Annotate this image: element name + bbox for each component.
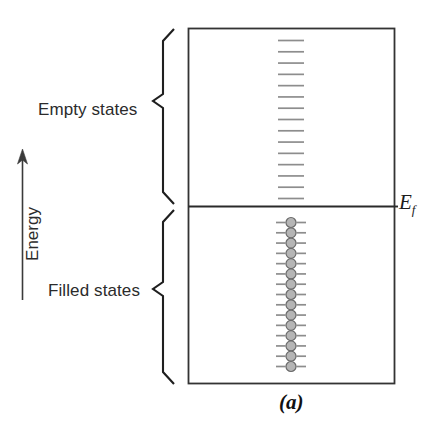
figure-caption: (a) [279,390,304,415]
empty-states-brace [153,29,174,204]
electron-marker [286,310,296,320]
filled-state-level [276,362,306,372]
empty-states-label: Empty states [38,100,137,120]
electron-marker [286,279,296,289]
empty-states-levels [278,41,304,199]
filled-state-level [276,310,306,320]
filled-state-level [276,331,306,341]
electron-marker [286,362,296,372]
energy-band-diagram-figure: Empty states Filled states Energy Ef (a) [0,0,432,423]
filled-state-level [276,300,306,310]
filled-state-level [276,259,306,269]
filled-state-level [276,320,306,330]
fermi-energy-subscript: f [412,202,416,217]
electron-marker [286,269,296,279]
electron-marker [286,228,296,238]
electron-marker [286,248,296,258]
filled-state-level [276,290,306,300]
electron-marker [286,259,296,269]
electron-marker [286,331,296,341]
energy-axis-label: Energy [23,189,43,279]
fermi-energy-symbol: E [399,190,412,214]
electron-marker [286,238,296,248]
electron-marker [286,341,296,351]
filled-state-level [276,351,306,361]
filled-states-levels [276,218,306,372]
filled-state-level [276,341,306,351]
filled-state-level [276,238,306,248]
filled-states-label: Filled states [48,281,140,301]
filled-state-level [276,218,306,228]
electron-marker [286,320,296,330]
electron-marker [286,351,296,361]
filled-states-brace [153,210,174,384]
electron-marker [286,218,296,228]
filled-state-level [276,248,306,258]
filled-state-level [276,279,306,289]
fermi-energy-label: Ef [399,190,415,218]
electron-marker [286,300,296,310]
diagram-canvas [0,0,432,423]
filled-state-level [276,228,306,238]
electron-marker [286,290,296,300]
filled-state-level [276,269,306,279]
